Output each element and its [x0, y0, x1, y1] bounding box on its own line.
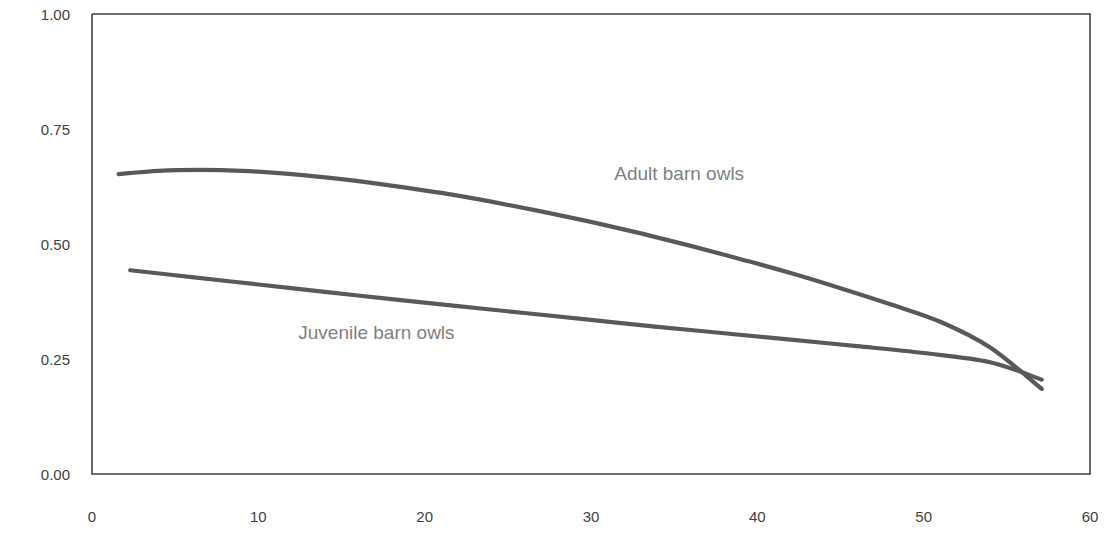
- series-line-adult-barn-owls: [119, 170, 1042, 389]
- series-annotation-juvenile-barn-owls: Juvenile barn owls: [298, 322, 454, 341]
- x-tick-label: 60: [1082, 509, 1099, 524]
- x-tick-label: 30: [583, 509, 600, 524]
- x-tick-label: 40: [749, 509, 766, 524]
- y-tick-label: 1.00: [41, 7, 70, 22]
- y-tick-label: 0.50: [41, 237, 70, 252]
- y-tick-label: 0.00: [41, 467, 70, 482]
- y-tick-label: 0.75: [41, 122, 70, 137]
- x-tick-label: 10: [250, 509, 267, 524]
- series-line-juvenile-barn-owls: [130, 270, 1042, 379]
- plot-frame-group: [92, 14, 1090, 474]
- chart-container: 1.000.750.500.250.00 0102030405060 Adult…: [0, 0, 1107, 556]
- chart-plot-area: [0, 0, 1107, 556]
- y-tick-label: 0.25: [41, 352, 70, 367]
- plot-frame-border: [92, 14, 1090, 474]
- x-tick-label: 0: [88, 509, 96, 524]
- series-group: [119, 170, 1042, 389]
- series-annotation-adult-barn-owls: Adult barn owls: [614, 163, 744, 182]
- x-tick-label: 50: [915, 509, 932, 524]
- x-tick-label: 20: [416, 509, 433, 524]
